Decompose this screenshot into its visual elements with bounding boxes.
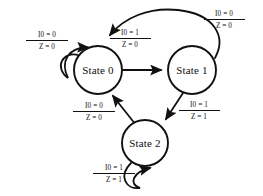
transition-label-t0: I0 = 0 Z = 0 <box>26 31 68 51</box>
state-diagram-canvas: State 0 State 1 State 2 I0 = 0 Z = 0 I0 … <box>0 0 263 196</box>
state-node-state0[interactable]: State 0 <box>74 46 122 94</box>
transition-label-t3: I0 = 1 Z = 1 <box>179 101 220 121</box>
edge-path-state1-state2 <box>166 93 183 119</box>
transition-label-t5: I0 = 1 Z = 1 <box>93 164 135 184</box>
transition-output-t2: Z = 0 <box>216 22 232 30</box>
transition-label-t2: I0 = 0 Z = 0 <box>204 10 245 30</box>
transition-state1-to-state2 <box>166 93 183 119</box>
transition-state2-to-state0 <box>113 96 136 125</box>
transition-label-t1: I0 = 1 Z = 0 <box>110 29 151 49</box>
transition-input-t1: I0 = 1 <box>121 29 139 37</box>
transition-label-t4: I0 = 0 Z = 0 <box>73 102 115 122</box>
transition-input-t0: I0 = 0 <box>38 31 56 39</box>
transition-output-t4: Z = 0 <box>86 114 102 122</box>
state-diagram: State 0 State 1 State 2 I0 = 0 Z = 0 I0 … <box>0 0 263 196</box>
transition-output-t5: Z = 1 <box>106 176 122 184</box>
transition-input-t4: I0 = 0 <box>85 102 103 110</box>
transition-output-t0: Z = 0 <box>39 43 55 51</box>
transition-input-t2: I0 = 0 <box>215 10 233 18</box>
state-label-state2: State 2 <box>129 137 161 149</box>
transition-input-t5: I0 = 1 <box>105 164 123 172</box>
transition-output-t1: Z = 0 <box>122 41 138 49</box>
state-label-state1: State 1 <box>176 64 208 76</box>
transition-output-t3: Z = 1 <box>191 113 207 121</box>
state-node-state2[interactable]: State 2 <box>122 120 168 166</box>
transition-input-t3: I0 = 1 <box>190 101 208 109</box>
state-node-state1[interactable]: State 1 <box>168 46 216 94</box>
edge-path-state2-state0 <box>113 96 136 125</box>
state-label-state0: State 0 <box>82 64 114 76</box>
